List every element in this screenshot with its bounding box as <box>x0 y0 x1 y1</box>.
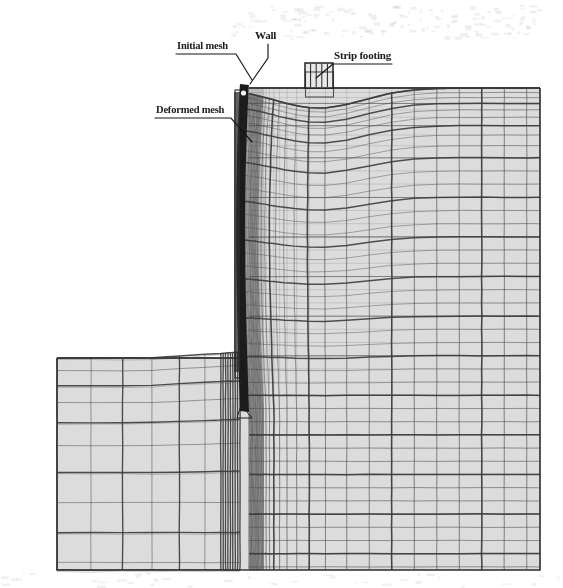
mesh-figure: Initial mesh Wall Strip footing Deformed… <box>0 0 563 588</box>
finite-element-mesh-canvas <box>0 0 563 588</box>
label-deformed-mesh: Deformed mesh <box>156 105 224 116</box>
label-wall: Wall <box>255 30 276 41</box>
label-strip-footing: Strip footing <box>334 50 391 61</box>
label-initial-mesh: Initial mesh <box>177 41 228 52</box>
